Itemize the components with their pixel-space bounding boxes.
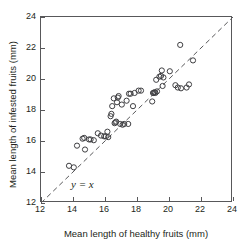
data-point [105,129,110,134]
y-tick-label: 22 [26,43,36,52]
data-point [159,68,164,73]
plot-frame [40,16,232,202]
identity-line-label: y = x [71,178,94,190]
y-tick-mark [41,79,45,80]
x-tick-label: 14 [67,205,77,214]
data-point [110,104,115,109]
data-layer [41,17,233,203]
data-point [167,69,172,74]
x-tick-mark [105,197,106,201]
data-point [154,77,159,82]
x-axis-title: Mean length of healthy fruits (mm) [40,228,232,239]
y-tick-mark [41,17,45,18]
x-tick-mark [137,197,138,201]
x-tick-mark [233,197,234,201]
y-tick-label: 24 [26,12,36,21]
x-tick-label: 18 [131,205,141,214]
data-point [178,42,183,47]
y-tick-label: 14 [26,167,36,176]
y-tick-label: 20 [26,74,36,83]
y-tick-mark [41,48,45,49]
y-tick-mark [41,172,45,173]
data-point [178,86,183,91]
x-tick-label: 20 [163,205,173,214]
x-tick-label: 24 [227,205,237,214]
y-tick-label: 16 [26,136,36,145]
data-point [160,83,165,88]
x-tick-mark [73,197,74,201]
data-point [74,143,79,148]
data-point [119,102,124,107]
y-tick-mark [41,141,45,142]
x-tick-mark [201,197,202,201]
x-tick-mark [169,197,170,201]
data-point [82,147,87,152]
y-tick-label: 18 [26,105,36,114]
x-tick-label: 12 [35,205,45,214]
y-tick-mark [41,110,45,111]
x-tick-mark [41,197,42,201]
x-tick-label: 16 [99,205,109,214]
data-point [130,104,135,109]
data-point [190,58,195,63]
data-point [124,98,129,103]
identity-reference-line [41,17,233,203]
x-tick-label: 22 [195,205,205,214]
scatter-plot-figure: 12141618202224 12141618202224 y = x Mean… [0,0,249,251]
y-axis-title: Mean length of infested fruits (mm) [7,22,18,208]
data-point [71,165,76,170]
data-point [150,99,155,104]
data-points-group [66,42,195,170]
